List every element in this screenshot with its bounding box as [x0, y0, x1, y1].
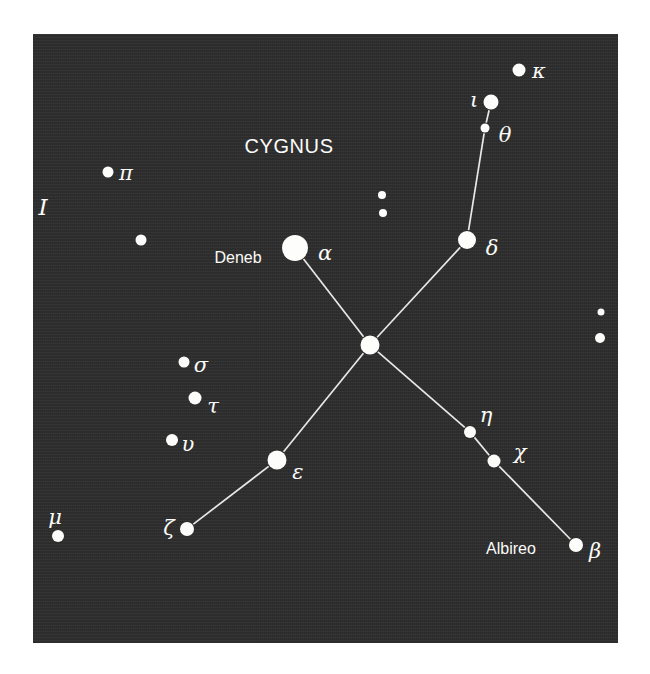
star-field-2[interactable]	[378, 191, 386, 199]
star-name-alpha: Deneb	[214, 250, 261, 266]
constellation-line-gamma-epsilon	[284, 353, 364, 452]
star-delta[interactable]	[458, 231, 476, 249]
star-kappa[interactable]	[513, 64, 526, 77]
star-label-zeta: ζ	[163, 518, 174, 539]
star-label-epsilon: ε	[292, 462, 303, 483]
star-pi[interactable]	[103, 167, 114, 178]
constellation-line-epsilon-zeta	[193, 466, 268, 524]
star-label-delta: δ	[486, 238, 499, 259]
star-label-pi: π	[119, 163, 133, 184]
star-label-beta: β	[589, 541, 601, 562]
star-field-5[interactable]	[595, 333, 605, 343]
star-field-3[interactable]	[379, 209, 387, 217]
constellation-line-gamma-delta	[377, 247, 460, 337]
star-chart-figure: αDenebδεβAlbireoζικθηχπστυμ CYGNUS I	[0, 0, 650, 674]
star-name-beta: Albireo	[486, 541, 536, 557]
star-label-kappa: κ	[532, 61, 546, 82]
star-field-4[interactable]	[598, 309, 605, 316]
constellation-line-eta-chi	[474, 437, 489, 455]
constellation-line-chi-beta	[499, 466, 570, 539]
star-beta[interactable]	[569, 538, 583, 552]
star-theta[interactable]	[481, 124, 490, 133]
star-alpha[interactable]	[282, 235, 308, 261]
star-epsilon[interactable]	[268, 451, 287, 470]
star-gamma[interactable]	[361, 336, 380, 355]
star-iota[interactable]	[484, 95, 499, 110]
star-label-alpha: α	[318, 243, 332, 264]
constellation-line-layer	[193, 110, 570, 539]
star-eta[interactable]	[464, 426, 476, 438]
star-chi[interactable]	[488, 455, 501, 468]
constellation-line-delta-theta	[469, 133, 485, 230]
constellation-line-gamma-eta	[378, 352, 465, 428]
constellation-line-alpha-gamma	[304, 259, 364, 337]
star-mu[interactable]	[52, 530, 64, 542]
star-label-tau: τ	[207, 396, 219, 417]
star-label-sigma: σ	[194, 355, 208, 376]
constellation-line-theta-iota	[486, 110, 489, 122]
star-label-mu: μ	[48, 507, 62, 528]
star-label-chi: χ	[514, 442, 527, 463]
star-label-eta: η	[480, 405, 493, 426]
star-sigma[interactable]	[179, 357, 190, 368]
sky-panel: αDenebδεβAlbireoζικθηχπστυμ CYGNUS I	[33, 34, 618, 643]
star-upsilon[interactable]	[166, 434, 178, 446]
star-label-upsilon: υ	[182, 434, 195, 455]
star-label-theta: θ	[499, 125, 512, 146]
star-label-iota: ι	[470, 90, 478, 111]
star-field-1[interactable]	[136, 235, 147, 246]
star-tau[interactable]	[189, 392, 202, 405]
constellation-title: CYGNUS	[244, 136, 333, 156]
star-zeta[interactable]	[180, 522, 194, 536]
plate-index-label: I	[38, 196, 47, 219]
